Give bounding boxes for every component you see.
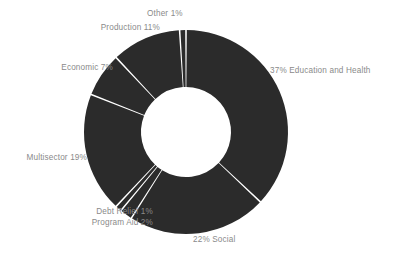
- slice-label-production: Production 11%: [101, 22, 160, 33]
- donut-chart-svg: [0, 0, 405, 259]
- slice-label-group-debt-relief-program-aid: Debt Relief 1% Program Aid 2%: [92, 206, 153, 228]
- slice-label-economic: Economic 7%: [61, 62, 113, 73]
- slice-label-other: Other 1%: [147, 8, 183, 19]
- slice-label-education-and-health: 37% Education and Health: [270, 65, 371, 76]
- slice-label-multisector: Multisector 19%: [27, 152, 88, 163]
- slice-label-debt-relief: Debt Relief 1%: [92, 206, 153, 217]
- donut-chart: 37% Education and Health 22% Social Debt…: [0, 0, 405, 259]
- slice-label-program-aid: Program Aid 2%: [92, 217, 153, 228]
- donut-slices-group: [84, 30, 288, 234]
- slice-label-social: 22% Social: [193, 234, 235, 245]
